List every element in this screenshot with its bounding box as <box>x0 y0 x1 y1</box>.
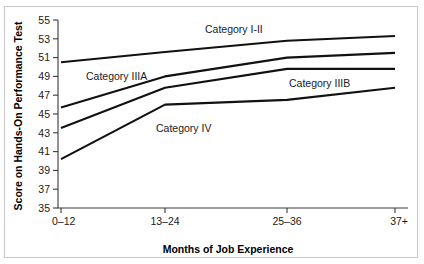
chart-plot-area: Score on Hands-On Performance Test Month… <box>0 0 424 264</box>
y-tick-label: 53 <box>38 33 50 45</box>
y-tick-label: 55 <box>38 14 50 26</box>
series-annotation-label: Category IIIB <box>289 77 350 89</box>
x-tick-label: 0–12 <box>52 215 76 227</box>
series-annotation-label: Category IV <box>156 122 211 134</box>
y-tick-label: 35 <box>38 202 50 214</box>
data-line-series-3 <box>61 88 395 159</box>
x-tick-label: 37+ <box>390 215 408 227</box>
y-tick-label: 49 <box>38 70 50 82</box>
series-annotation-label: Category IIIA <box>86 70 147 82</box>
x-tick-label: 25–36 <box>272 215 301 227</box>
chart-container: Score on Hands-On Performance Test Month… <box>0 0 424 264</box>
x-axis-ticks: 0–1213–2425–3637+ <box>52 208 408 227</box>
y-tick-label: 43 <box>38 127 50 139</box>
y-axis-title: Score on Hands-On Performance Test <box>12 21 24 210</box>
data-line-series-0 <box>61 36 395 62</box>
axis-lines <box>58 20 408 208</box>
y-tick-label: 45 <box>38 108 50 120</box>
series-annotation-label: Category I-II <box>205 23 263 35</box>
y-tick-label: 39 <box>38 164 50 176</box>
y-axis-ticks: 3537394143454749515355 <box>38 14 58 214</box>
x-axis-title: Months of Job Experience <box>163 243 294 255</box>
y-tick-label: 47 <box>38 89 50 101</box>
x-tick-label: 13–24 <box>150 215 179 227</box>
y-tick-label: 41 <box>38 145 50 157</box>
y-tick-label: 51 <box>38 51 50 63</box>
data-series-group <box>61 36 395 159</box>
y-tick-label: 37 <box>38 183 50 195</box>
